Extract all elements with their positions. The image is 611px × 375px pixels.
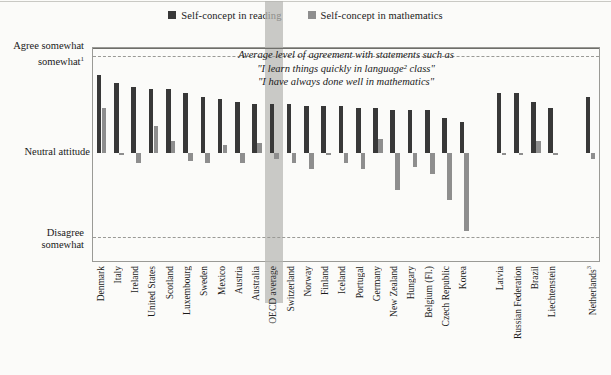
- x-axis-label-mexico: Mexico: [217, 266, 227, 295]
- x-axis-label-austria: Austria: [234, 266, 244, 294]
- x-axis-label-norway: Norway: [303, 266, 313, 297]
- bar-read-czech-republic: [442, 118, 447, 153]
- x-axis-label-finland: Finland: [320, 266, 330, 295]
- bar-read-oecd-average: [270, 104, 275, 153]
- plot-area: [93, 48, 599, 261]
- bar-math-liechtenstein: [553, 153, 558, 155]
- x-axis-label-belgium-fl: Belgium (Fl.): [424, 266, 434, 318]
- bar-math-iceland: [344, 153, 349, 163]
- bar-read-mexico: [218, 99, 223, 153]
- bar-read-germany: [373, 108, 378, 153]
- bar-read-brazil: [531, 102, 536, 153]
- y-axis-label-agree-sup-wrap: somewhat1: [38, 56, 84, 67]
- bar-math-russian-federation: [519, 153, 524, 155]
- bar-read-denmark: [97, 75, 102, 153]
- bar-math-netherlands: [591, 153, 596, 159]
- bar-math-belgium-fl: [430, 153, 435, 174]
- x-axis-label-netherlands: Netherlands3: [584, 266, 598, 315]
- x-axis-label-switzerland: Switzerland: [286, 266, 296, 311]
- x-axis-label-ireland: Ireland: [130, 266, 140, 293]
- x-axis-label-australia: Australia: [251, 266, 261, 301]
- bar-read-luxembourg: [183, 93, 188, 153]
- x-axis-label-korea: Korea: [458, 266, 468, 289]
- x-axis-label-luxembourg: Luxembourg: [182, 266, 192, 315]
- bar-math-mexico: [223, 145, 228, 153]
- bar-math-united-states: [154, 126, 159, 153]
- bar-math-hungary: [413, 153, 418, 167]
- x-axis-label-oecd-average: OECD average: [268, 266, 278, 324]
- gridline-disagree-somewhat: [93, 237, 599, 238]
- bar-read-hungary: [408, 110, 413, 153]
- y-axis-label-disagree-line2: somewhat: [41, 239, 84, 250]
- legend-swatch-reading: [168, 11, 176, 19]
- bar-math-sweden: [205, 153, 210, 163]
- bar-read-iceland: [339, 106, 344, 153]
- legend-label-mathematics: Self-concept in mathematics: [321, 10, 443, 21]
- x-axis-label-scotland: Scotland: [165, 266, 175, 299]
- x-axis-label-iceland: Iceland: [337, 266, 347, 294]
- bar-read-scotland: [166, 89, 171, 153]
- bar-math-brazil: [536, 141, 541, 153]
- bar-math-korea: [464, 153, 469, 231]
- x-axis-label-portugal: Portugal: [355, 266, 365, 298]
- x-axis-label-sweden: Sweden: [199, 266, 209, 296]
- bar-math-portugal: [361, 153, 366, 169]
- x-axis-label-brazil: Brazil: [530, 266, 540, 289]
- bar-math-oecd-average: [274, 153, 279, 159]
- bar-read-netherlands: [586, 97, 591, 153]
- y-axis-label-agree-text: Agree somewhat: [13, 40, 84, 51]
- y-axis-label-disagree: Disagree somewhat Disagree somewhat: [4, 227, 84, 251]
- x-axis-label-liechtenstein: Liechtenstein: [547, 266, 557, 317]
- bar-math-scotland: [171, 141, 176, 153]
- legend-item-mathematics: Self-concept in mathematics: [308, 10, 443, 21]
- bar-read-switzerland: [287, 104, 292, 153]
- bar-read-austria: [235, 102, 240, 153]
- x-axis-label-latvia: Latvia: [495, 266, 505, 290]
- bar-read-united-states: [149, 89, 154, 153]
- bar-math-luxembourg: [188, 153, 193, 161]
- bar-read-korea: [460, 122, 465, 153]
- bar-read-sweden: [201, 97, 206, 153]
- page-top-rule: [0, 1, 611, 2]
- bar-math-switzerland: [292, 153, 297, 163]
- bar-read-australia: [252, 104, 257, 153]
- bar-math-germany: [378, 139, 383, 153]
- bar-math-denmark: [102, 108, 107, 153]
- bar-math-italy: [119, 153, 124, 155]
- x-axis-label-denmark: Denmark: [96, 266, 106, 301]
- y-axis-label-disagree-line1: Disagree: [47, 227, 84, 238]
- plot-frame: [92, 47, 600, 262]
- oecd-average-highlight-band: [265, 1, 283, 303]
- x-axis-label-hungary: Hungary: [406, 266, 416, 299]
- bar-read-liechtenstein: [548, 108, 553, 153]
- x-axis-label-italy: Italy: [113, 266, 123, 283]
- bar-math-czech-republic: [447, 153, 452, 200]
- x-axis-label-russian-federation: Russian Federation: [513, 266, 523, 339]
- bar-read-latvia: [497, 93, 502, 153]
- bar-read-italy: [114, 83, 119, 153]
- x-axis-label-czech-republic: Czech Republic: [441, 266, 451, 326]
- bar-read-new-zealand: [390, 110, 395, 153]
- bar-read-belgium-fl: [425, 110, 430, 153]
- x-axis-label-germany: Germany: [372, 266, 382, 301]
- y-axis-label-neutral: Neutral attitude: [0, 146, 90, 158]
- x-axis-labels: DenmarkItalyIrelandUnited StatesScotland…: [92, 266, 600, 375]
- bar-math-new-zealand: [395, 153, 400, 190]
- zero-baseline: [93, 48, 599, 49]
- y-axis-label-agree: Agree somewhat somewhat1: [4, 40, 84, 68]
- bar-math-ireland: [136, 153, 141, 163]
- bar-read-russian-federation: [514, 93, 519, 153]
- y-axis-label-agree-sup: 1: [81, 54, 85, 62]
- x-axis-label-superscript: 3: [585, 266, 592, 269]
- bar-math-australia: [257, 143, 262, 153]
- bar-math-latvia: [502, 153, 507, 155]
- bar-read-ireland: [131, 87, 136, 153]
- bar-math-austria: [240, 153, 245, 163]
- bar-read-portugal: [356, 108, 361, 153]
- bar-math-finland: [326, 153, 331, 155]
- bar-read-finland: [321, 106, 326, 153]
- x-axis-label-new-zealand: New Zealand: [389, 266, 399, 317]
- x-axis-label-united-states: United States: [147, 266, 157, 317]
- bar-math-norway: [309, 153, 314, 169]
- gridline-agree-somewhat: [93, 56, 599, 57]
